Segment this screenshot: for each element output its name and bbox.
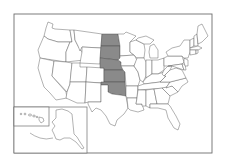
hawaii-inset-box (14, 107, 49, 126)
state-rhode-island[interactable] (196, 50, 198, 54)
state-new-mexico[interactable] (85, 82, 101, 103)
state-arkansas[interactable] (126, 86, 138, 98)
state-north-dakota[interactable] (101, 34, 120, 46)
state-south-dakota[interactable] (100, 46, 120, 60)
state-mississippi[interactable] (136, 90, 146, 106)
state-colorado[interactable] (86, 67, 104, 83)
map-canvas (0, 0, 225, 162)
state-kansas[interactable] (104, 70, 125, 82)
state-vermont[interactable] (190, 38, 194, 48)
state-wyoming[interactable] (80, 47, 101, 64)
us-map (0, 0, 225, 162)
state-connecticut[interactable] (190, 50, 196, 55)
state-iowa[interactable] (118, 55, 137, 66)
